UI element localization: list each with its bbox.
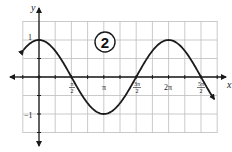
svg-text:2: 2 xyxy=(200,88,203,94)
x-tick-label-3pi-over-2: 3π 2 xyxy=(133,81,141,94)
x-axis-label: x xyxy=(226,79,232,90)
y-tick-label-1: 1 xyxy=(28,33,32,42)
svg-text:3π: 3π xyxy=(134,81,140,87)
x-tick-label-pi: π xyxy=(102,83,106,92)
cosine-graph: y x 1 −1 π 2 π 3π 2 2π 5π 2 2 xyxy=(0,0,232,152)
svg-text:2: 2 xyxy=(71,88,74,94)
x-tick-label-5pi-over-2: 5π 2 xyxy=(197,81,205,94)
y-tick-label-neg1: −1 xyxy=(24,111,33,120)
svg-text:2: 2 xyxy=(136,88,139,94)
x-tick-label-2pi: 2π xyxy=(164,83,172,92)
problem-number-badge: 2 xyxy=(95,32,115,52)
svg-text:5π: 5π xyxy=(198,81,204,87)
y-axis-label: y xyxy=(30,2,36,13)
svg-text:π: π xyxy=(70,81,73,87)
svg-text:2: 2 xyxy=(101,34,109,51)
